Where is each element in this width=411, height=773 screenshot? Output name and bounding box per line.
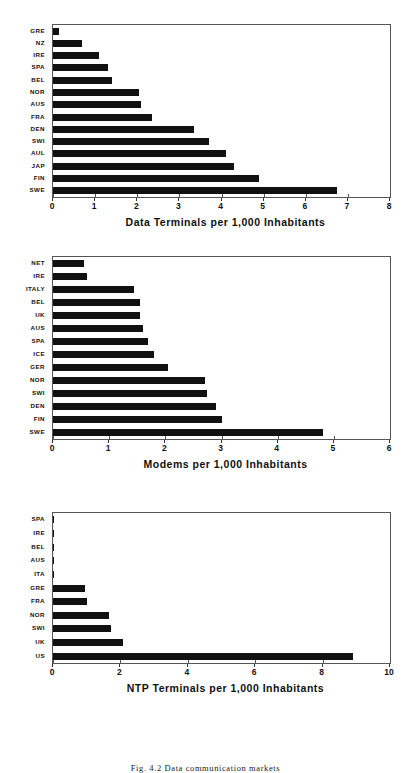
category-label: SPA <box>0 61 50 73</box>
figure-page: GRENZIRESPABELNORAUSFRADENSWIAULJAPFINSW… <box>0 0 411 773</box>
chart-modems: NETIREITALYBELUKAUSSPAICEGERNORSWIDENFIN… <box>0 256 411 470</box>
category-axis-labels: SPAIREBELAUSITAGREFRANORSWIUKUS <box>0 512 50 662</box>
plot-area <box>52 512 391 664</box>
bar-row <box>53 413 390 426</box>
category-label: AUS <box>0 98 50 110</box>
x-axis-tick-label: 0 <box>50 443 55 453</box>
bar <box>53 544 54 551</box>
bar <box>53 625 111 632</box>
bar-row <box>53 172 390 184</box>
bar-row <box>53 123 390 135</box>
category-label: GRE <box>0 24 50 36</box>
axis-inner-tick <box>179 194 180 197</box>
x-axis-tick-label: 6 <box>252 667 257 677</box>
axis-inner-tick <box>390 660 391 663</box>
category-label: US <box>0 648 50 662</box>
bar-row <box>53 86 390 98</box>
x-axis-title: NTP Terminals per 1,000 Inhabitants <box>0 682 411 694</box>
axis-inner-tick <box>390 194 391 197</box>
axis-inner-tick <box>255 660 256 663</box>
category-label: FRA <box>0 594 50 608</box>
bar <box>53 325 143 332</box>
bar <box>53 163 234 170</box>
category-label: AUS <box>0 553 50 567</box>
category-axis-labels: NETIREITALYBELUKAUSSPAICEGERNORSWIDENFIN… <box>0 256 50 438</box>
category-label: SPA <box>0 512 50 526</box>
bar-row <box>53 136 390 148</box>
category-label: GER <box>0 360 50 373</box>
category-label: SWE <box>0 425 50 438</box>
bar <box>53 114 152 121</box>
category-label: SWI <box>0 135 50 147</box>
bar <box>53 351 154 358</box>
bar-row <box>53 513 390 527</box>
x-axis-tick-label: 2 <box>117 667 122 677</box>
category-label: IRE <box>0 526 50 540</box>
category-label: ITALY <box>0 282 50 295</box>
figure-caption: Fig. 4.2 Data communication markets <box>0 763 411 773</box>
x-axis-tick-label: 0 <box>50 667 55 677</box>
bar-row <box>53 554 390 568</box>
axis-inner-tick <box>53 436 54 439</box>
bar <box>53 364 168 371</box>
axis-inner-tick <box>334 436 335 439</box>
axis-inner-tick <box>165 436 166 439</box>
x-axis-tick-label: 2 <box>134 201 139 211</box>
bar-rows <box>53 257 390 439</box>
category-label: FIN <box>0 171 50 183</box>
category-label: NOR <box>0 85 50 97</box>
category-label: NOR <box>0 373 50 386</box>
bar-row <box>53 148 390 160</box>
x-axis-title: Modems per 1,000 Inhabitants <box>0 458 411 470</box>
axis-inner-tick <box>120 660 121 663</box>
bar <box>53 598 87 605</box>
axis-inner-tick <box>306 194 307 197</box>
category-label: SPA <box>0 334 50 347</box>
bar <box>53 557 54 564</box>
chart-ntp-terminals: SPAIREBELAUSITAGREFRANORSWIUKUS0246810NT… <box>0 512 411 694</box>
bar-row <box>53 581 390 595</box>
bar-row <box>53 283 390 296</box>
category-label: BEL <box>0 73 50 85</box>
bar <box>53 312 140 319</box>
bar <box>53 77 112 84</box>
bar-row <box>53 361 390 374</box>
plot-area <box>52 24 391 198</box>
bar <box>53 429 323 436</box>
x-axis-tick-label: 8 <box>319 667 324 677</box>
category-label: BEL <box>0 295 50 308</box>
bar-row <box>53 595 390 609</box>
bar-row <box>53 649 390 663</box>
category-label: BEL <box>0 539 50 553</box>
bar-row <box>53 99 390 111</box>
bar <box>53 286 134 293</box>
category-label: IRE <box>0 269 50 282</box>
x-axis-tick-label: 3 <box>218 443 223 453</box>
bar-row <box>53 568 390 582</box>
category-axis-labels: GRENZIRESPABELNORAUSFRADENSWIAULJAPFINSW… <box>0 24 50 196</box>
x-axis: 012345678 <box>52 198 391 215</box>
bar <box>53 516 54 523</box>
bar <box>53 416 222 423</box>
chart-data-terminals: GRENZIRESPABELNORAUSFRADENSWIAULJAPFINSW… <box>0 24 411 228</box>
axis-inner-tick <box>137 194 138 197</box>
x-axis-tick-label: 0 <box>50 201 55 211</box>
bar-row <box>53 160 390 172</box>
bar-row <box>53 309 390 322</box>
bar <box>53 64 108 71</box>
bar <box>53 639 123 646</box>
bar <box>53 530 54 537</box>
axis-inner-tick <box>222 194 223 197</box>
axis-inner-tick <box>264 194 265 197</box>
bar <box>53 338 148 345</box>
x-axis-tick-label: 7 <box>345 201 350 211</box>
category-label: SWE <box>0 184 50 196</box>
axis-inner-tick <box>53 660 54 663</box>
category-label: FIN <box>0 412 50 425</box>
bar <box>53 52 99 59</box>
axis-inner-tick <box>222 436 223 439</box>
bar <box>53 299 140 306</box>
bar <box>53 585 85 592</box>
bar-row <box>53 257 390 270</box>
bar <box>53 612 109 619</box>
